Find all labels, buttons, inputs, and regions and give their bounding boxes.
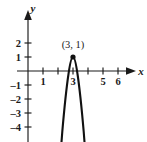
vertex-point-marker — [70, 54, 75, 59]
parabola-graph-figure: y x 2 1 –1 –2 –3 –4 1 3 5 6 (3, 1) — [0, 0, 147, 142]
x-tick-label-1: 1 — [40, 76, 45, 87]
y-tick-label-neg1: –1 — [10, 80, 22, 91]
vertex-coordinate-label: (3, 1) — [62, 39, 85, 51]
x-tick-label-6: 6 — [115, 76, 120, 87]
y-tick-label-neg3: –3 — [10, 108, 22, 119]
x-tick-label-5: 5 — [100, 76, 105, 87]
y-tick-label-neg4: –4 — [10, 122, 22, 133]
x-axis-label: x — [137, 65, 144, 77]
x-axis-arrow-icon — [126, 67, 136, 75]
y-axis-label: y — [29, 2, 36, 14]
y-tick-label-neg2: –2 — [10, 94, 22, 105]
y-tick-label-2: 2 — [16, 38, 21, 49]
x-tick-label-3: 3 — [70, 76, 75, 87]
coordinate-plane-svg: y x 2 1 –1 –2 –3 –4 1 3 5 6 (3, 1) — [0, 0, 147, 142]
y-tick-label-1: 1 — [16, 52, 21, 63]
